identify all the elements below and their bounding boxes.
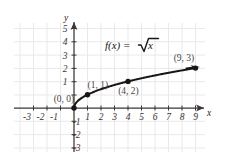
- data-point: [71, 105, 76, 110]
- graph-svg: -3 -2 -1 1 2 3 4 5 6 7 8 9 5 4 3 2 1 -1 …: [0, 0, 229, 168]
- x-tick-label: 3: [111, 112, 117, 122]
- square-root-function-graph: -3 -2 -1 1 2 3 4 5 6 7 8 9 5 4 3 2 1 -1 …: [0, 0, 229, 168]
- x-tick-label: -1: [50, 112, 58, 122]
- y-tick-label: 1: [63, 77, 68, 87]
- data-point: [85, 92, 90, 97]
- x-tick-label: -3: [23, 112, 31, 122]
- y-tick-label: -3: [73, 143, 81, 153]
- function-label-text: f(x) =: [105, 39, 130, 52]
- y-tick-label: 5: [63, 24, 68, 34]
- x-tick-label: 6: [153, 112, 158, 122]
- data-point: [125, 79, 130, 84]
- radicand-text: x: [147, 39, 153, 51]
- y-tick-label: -2: [73, 130, 81, 140]
- y-tick-label: 2: [63, 64, 68, 74]
- y-axis-label: y: [63, 13, 69, 23]
- x-tick-label: 2: [99, 112, 104, 122]
- x-tick-label: 4: [126, 112, 131, 122]
- x-tick-label: 8: [180, 112, 185, 122]
- y-tick-label: 4: [63, 37, 68, 47]
- x-tick-label: 1: [85, 112, 90, 122]
- point-label-four-two: (4, 2): [118, 86, 139, 97]
- x-axis-label: x: [206, 108, 212, 118]
- y-tick-label: 3: [62, 51, 68, 61]
- point-label-nine-three: (9, 3): [174, 53, 195, 64]
- point-label-one-one: (1, 1): [88, 80, 109, 91]
- x-tick-label: 5: [139, 112, 144, 122]
- point-label-origin: (0, 0): [54, 94, 75, 105]
- x-tick-label: 9: [193, 112, 198, 122]
- x-tick-label: -2: [37, 112, 45, 122]
- data-point: [193, 65, 198, 70]
- y-tick-label: -1: [73, 117, 81, 127]
